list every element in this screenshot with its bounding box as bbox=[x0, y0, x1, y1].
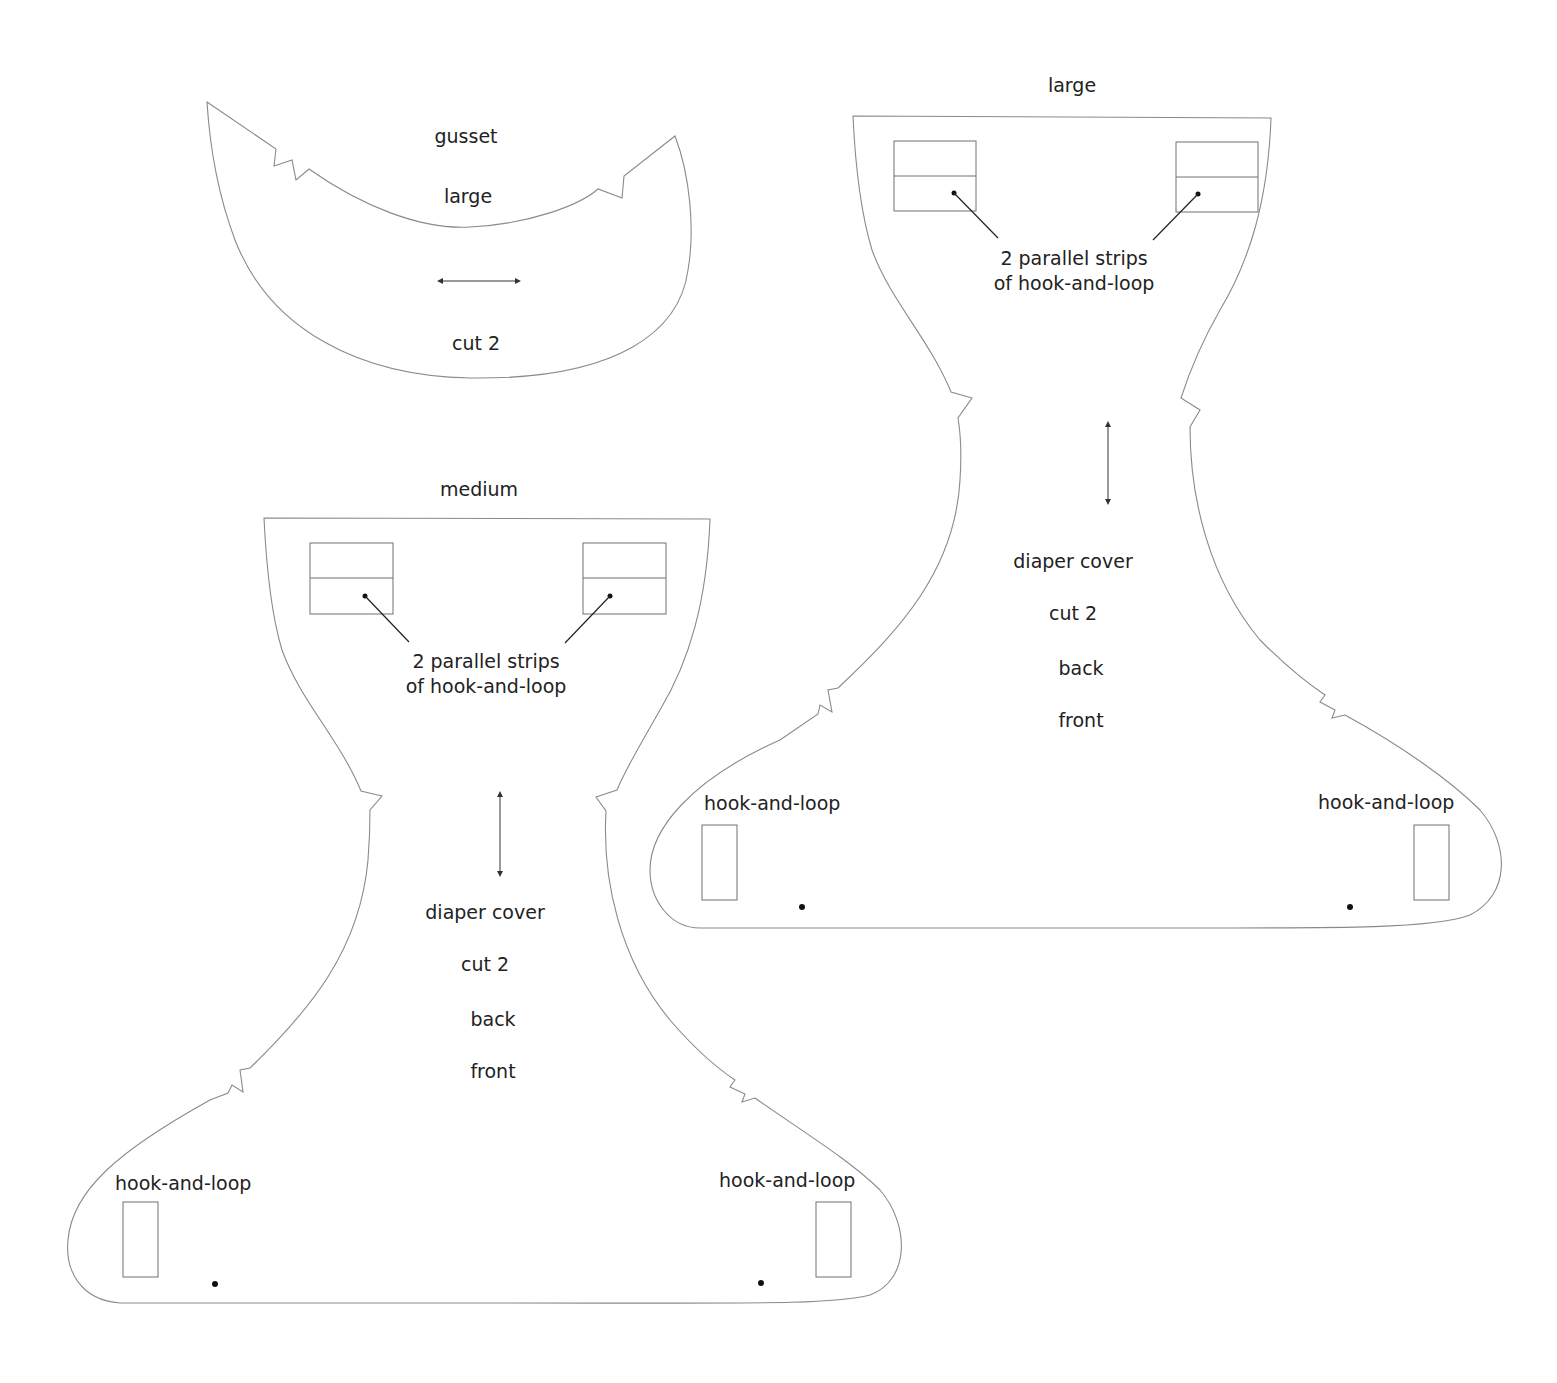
large-right-tab-box bbox=[1414, 825, 1449, 900]
medium-name-label: diaper cover bbox=[425, 899, 544, 925]
large-name-label: diaper cover bbox=[1013, 548, 1132, 574]
gusset-size-label: large bbox=[444, 183, 492, 209]
medium-front-label: front bbox=[470, 1058, 515, 1084]
large-strips-label-line1: 2 parallel strips bbox=[1000, 245, 1147, 271]
medium-snap-dot-right bbox=[758, 1280, 764, 1286]
large-strips-label-line2: of hook-and-loop bbox=[994, 270, 1155, 296]
large-snap-dot-right bbox=[1347, 904, 1353, 910]
large-left-tab-box bbox=[702, 825, 737, 900]
large-back-label: back bbox=[1058, 655, 1103, 681]
medium-left-tab-box bbox=[123, 1202, 158, 1277]
medium-right-tab-box bbox=[816, 1202, 851, 1277]
large-left-tab-label: hook-and-loop bbox=[704, 790, 840, 816]
medium-cut-label: cut 2 bbox=[461, 951, 509, 977]
medium-leader-line-left bbox=[365, 596, 409, 642]
gusset-cut-label: cut 2 bbox=[452, 330, 500, 356]
medium-strips-label-line1: 2 parallel strips bbox=[412, 648, 559, 674]
medium-size-label: medium bbox=[440, 476, 518, 502]
medium-back-label: back bbox=[470, 1006, 515, 1032]
large-cut-label: cut 2 bbox=[1049, 600, 1097, 626]
medium-leader-line-right bbox=[565, 596, 610, 643]
medium-right-tab-label: hook-and-loop bbox=[719, 1167, 855, 1193]
large-size-label: large bbox=[1048, 72, 1096, 98]
large-snap-dot-left bbox=[799, 904, 805, 910]
medium-snap-dot-left bbox=[212, 1281, 218, 1287]
large-front-label: front bbox=[1058, 707, 1103, 733]
medium-strips-label-line2: of hook-and-loop bbox=[406, 673, 567, 699]
large-right-tab-label: hook-and-loop bbox=[1318, 789, 1454, 815]
gusset-title-label: gusset bbox=[434, 123, 497, 149]
medium-left-tab-label: hook-and-loop bbox=[115, 1170, 251, 1196]
